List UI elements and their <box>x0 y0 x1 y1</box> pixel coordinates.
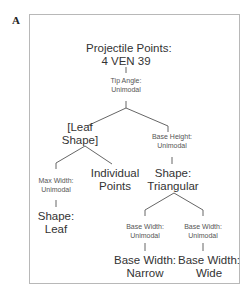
node-individual-points: Individual Points <box>87 167 143 193</box>
node-base-width-left-line1: Base Width: <box>120 222 170 231</box>
node-max-width-line1: Max Width: <box>31 176 81 185</box>
node-shape-triangular-line2: Triangular <box>145 180 201 193</box>
node-root: Projectile Points: 4 VEN 39 <box>86 42 166 68</box>
node-shape-leaf: Shape: Leaf <box>30 210 82 236</box>
node-root-line1: Projectile Points: <box>86 42 166 55</box>
node-base-width-left-line2: Unimodal <box>120 231 170 240</box>
node-shape-leaf-line2: Leaf <box>30 223 82 236</box>
node-max-width: Max Width: Unimodal <box>31 176 81 194</box>
node-leaf-shape: [Leaf Shape] <box>55 121 105 147</box>
node-base-width-wide-line2: Wide <box>178 267 240 280</box>
node-base-width-narrow-line2: Narrow <box>114 267 176 280</box>
node-root-line2: 4 VEN 39 <box>86 55 166 68</box>
node-base-width-right: Base Width: Unimodal <box>178 222 228 240</box>
node-leaf-shape-line2: Shape] <box>55 134 105 147</box>
connector-triangular-basewidth-right <box>174 193 203 216</box>
connector-triangular-basewidth-left <box>145 193 174 216</box>
node-base-width-left: Base Width: Unimodal <box>120 222 170 240</box>
node-base-width-wide-line1: Base Width: <box>178 254 240 267</box>
node-shape-leaf-line1: Shape: <box>30 210 82 223</box>
node-individual-points-line1: Individual <box>87 167 143 180</box>
node-base-height: Base Height: Unimodal <box>147 132 197 150</box>
connector-tipangle-baseheight <box>126 108 168 132</box>
node-tip-angle: Tip Angle: Unimodal <box>101 76 151 94</box>
node-individual-points-line2: Points <box>87 180 143 193</box>
node-shape-triangular: Shape: Triangular <box>145 167 201 193</box>
node-base-width-narrow-line1: Base Width: <box>114 254 176 267</box>
node-base-height-line1: Base Height: <box>147 132 197 141</box>
node-max-width-line2: Unimodal <box>31 185 81 194</box>
node-shape-triangular-line1: Shape: <box>145 167 201 180</box>
node-tip-angle-line1: Tip Angle: <box>101 76 151 85</box>
node-base-width-right-line1: Base Width: <box>178 222 228 231</box>
node-leaf-shape-line1: [Leaf <box>55 121 105 134</box>
node-base-width-wide: Base Width: Wide <box>178 254 240 280</box>
node-base-width-narrow: Base Width: Narrow <box>114 254 176 280</box>
connector-leafshape-individual <box>85 146 112 164</box>
node-tip-angle-line2: Unimodal <box>101 85 151 94</box>
node-base-width-right-line2: Unimodal <box>178 231 228 240</box>
node-base-height-line2: Unimodal <box>147 141 197 150</box>
connector-leafshape-maxwidth <box>56 146 85 169</box>
